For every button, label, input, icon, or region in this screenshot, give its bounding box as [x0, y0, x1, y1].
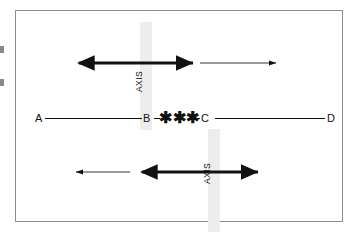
axis-label-upper: AXIS — [134, 71, 144, 92]
node-label-d: D — [327, 113, 335, 124]
left-margin-mark-top — [0, 46, 4, 53]
node-label-a: A — [35, 113, 42, 124]
left-margin-mark-bottom — [0, 79, 4, 86]
center-reference-line: A B ✱✱✱ C D — [15, 108, 343, 130]
figure-page: AXIS AXIS A B ✱✱✱ C D — [0, 0, 361, 238]
arrow-row-lower — [60, 161, 290, 183]
line-segment-break-c — [193, 118, 200, 119]
line-segment-a-b — [45, 118, 142, 119]
line-segment-c-d — [215, 118, 325, 119]
node-label-c: C — [201, 113, 209, 124]
node-label-b: B — [143, 113, 150, 124]
arrow-row-upper — [60, 52, 290, 74]
